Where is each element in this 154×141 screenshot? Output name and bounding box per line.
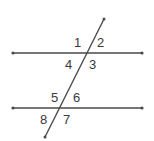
angle-label-5: 5 (51, 90, 58, 105)
parallel-lines-transversal-diagram: 1 2 4 3 5 6 8 7 (0, 0, 154, 141)
transversal-top-arrow-icon (103, 18, 106, 21)
angle-label-6: 6 (73, 90, 80, 105)
transversal-bottom-arrow-icon (44, 136, 47, 139)
lower-line-right-arrow-icon (140, 106, 143, 109)
upper-line-right-arrow-icon (140, 51, 143, 54)
angle-label-2: 2 (97, 35, 104, 50)
angle-label-4: 4 (65, 57, 72, 72)
angle-label-1: 1 (74, 35, 81, 50)
angle-label-8: 8 (40, 112, 47, 127)
lower-line-left-arrow-icon (11, 106, 14, 109)
angle-label-7: 7 (63, 112, 70, 127)
upper-line-left-arrow-icon (11, 51, 14, 54)
angle-label-3: 3 (89, 57, 96, 72)
